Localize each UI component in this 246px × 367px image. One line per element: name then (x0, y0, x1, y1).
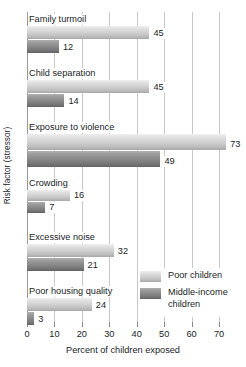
x-tick-label: 70 (214, 328, 224, 340)
x-tick-label: 50 (159, 328, 169, 340)
bar-value-label: 24 (94, 300, 108, 311)
gridline-10 (54, 12, 55, 322)
bar-value-label: 21 (86, 260, 100, 271)
bar-value-label: 16 (72, 190, 86, 201)
tick-mark-50 (164, 322, 165, 327)
bar-poor-children (27, 134, 227, 150)
bar-value-label: 12 (61, 42, 75, 53)
bar-value-label: 45 (151, 82, 165, 93)
bar-middle-income-children (27, 94, 65, 107)
bar-poor-children (27, 298, 93, 311)
bar-poor-children (27, 80, 150, 93)
x-axis-tick-labels: 010203040506070 (27, 328, 219, 342)
x-tick-label: 60 (186, 328, 196, 340)
bar-value-label: 73 (228, 139, 242, 150)
bar-value-label: 49 (162, 156, 176, 167)
gridline-30 (109, 12, 110, 322)
gridline-0 (27, 12, 28, 322)
bar-value-label: 32 (116, 246, 130, 257)
legend-label: Poor children (168, 270, 222, 282)
tick-mark-20 (82, 322, 83, 327)
bar-value-label: 7 (47, 202, 56, 213)
y-axis-title: Risk factor (stressor) (0, 0, 16, 330)
x-tick-label: 40 (132, 328, 142, 340)
legend-item: Poor children (140, 270, 244, 282)
legend-swatch-middle-income-children (140, 288, 161, 299)
x-tick-label: 30 (104, 328, 114, 340)
bar-value-label: 14 (66, 96, 80, 107)
bar-middle-income-children (27, 40, 60, 53)
bar-middle-income-children (27, 258, 85, 271)
tick-mark-30 (109, 322, 110, 327)
bar-middle-income-children (27, 202, 46, 213)
tick-mark-70 (219, 322, 220, 327)
category-label: Excessive noise (28, 232, 97, 243)
y-axis-title-text: Risk factor (stressor) (4, 126, 13, 204)
category-label: Crowding (28, 178, 70, 189)
tick-mark-10 (54, 322, 55, 327)
bar-chart: Risk factor (stressor) Family turmoil451… (0, 0, 246, 367)
tick-mark-40 (137, 322, 138, 327)
bar-middle-income-children (27, 151, 161, 167)
x-tick-label: 0 (24, 328, 29, 340)
category-label: Poor housing quality (28, 286, 114, 297)
bar-poor-children (27, 26, 150, 39)
legend-swatch-poor-children (140, 271, 161, 282)
bar-value-label: 45 (151, 28, 165, 39)
bar-value-label: 3 (36, 314, 45, 325)
tick-mark-60 (192, 322, 193, 327)
bar-poor-children (27, 190, 71, 201)
legend-label: Middle-income children (168, 287, 244, 310)
x-axis-title: Percent of children exposed (0, 345, 246, 355)
gridline-20 (82, 12, 83, 322)
category-label: Exposure to violence (28, 122, 116, 133)
category-label: Child separation (28, 68, 97, 79)
bar-middle-income-children (27, 312, 35, 325)
bar-poor-children (27, 244, 115, 257)
x-tick-label: 20 (77, 328, 87, 340)
category-label: Family turmoil (28, 14, 88, 25)
legend-item: Middle-income children (140, 287, 244, 310)
legend: Poor children Middle-income children (138, 268, 246, 317)
x-tick-label: 10 (49, 328, 59, 340)
